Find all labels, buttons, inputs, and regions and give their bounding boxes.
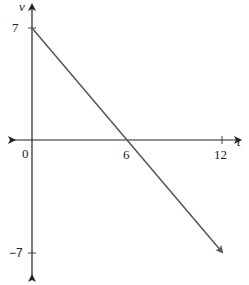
x-tick-label-6: 6 [123, 147, 130, 162]
origin-label: 0 [22, 146, 29, 161]
y-tick-label-neg7: −7 [9, 246, 23, 260]
x-tick-label-12: 12 [214, 147, 227, 162]
y-axis-label: v [19, 0, 25, 14]
y-tick-label-7: 7 [12, 20, 19, 35]
x-axis-label: t [237, 134, 241, 149]
chart: v t 0 6 12 7 −7 [0, 0, 249, 285]
